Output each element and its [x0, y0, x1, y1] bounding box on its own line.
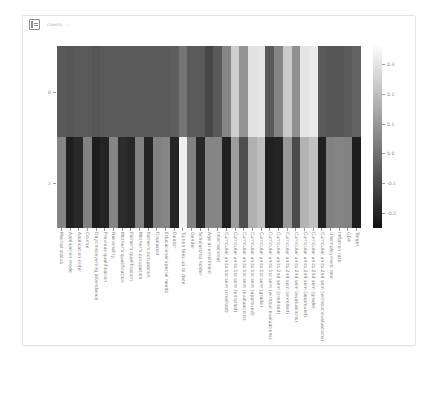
colorbar-tick-mark [382, 94, 385, 95]
x-tick-label-slot: Curricular units 1st sem (grade) [257, 231, 266, 349]
screenshot-root: clients › 01 Marital statusApplication m… [0, 0, 439, 404]
x-tick-label-slot: Previous qualification [100, 231, 109, 349]
colorbar-tick-mark [382, 64, 385, 65]
x-tick-label: Application mode [68, 232, 73, 273]
x-tick-label: Curricular units 2nd sem (grade) [311, 232, 316, 309]
x-tick-label: Curricular units 1st sem (approved) [250, 232, 255, 316]
chevron-right-icon: › [67, 22, 69, 27]
x-tick-label: Educational special needs [163, 232, 168, 293]
x-tick-label-slot: Curricular units 2nd sem (without evalua… [318, 231, 327, 349]
notebook-cell-icon[interactable] [29, 19, 40, 30]
x-tick-label: Curricular units 1st sem (enrolled) [233, 232, 238, 312]
x-tick-label: Tuition fees up to date [181, 232, 186, 285]
colorbar-gradient [373, 46, 382, 228]
x-tick-label-slot: Curricular units 2nd sem (grade) [309, 231, 318, 349]
colorbar-tick-label: 0.0 [387, 151, 394, 156]
x-tick-label: Father's qualification [129, 232, 134, 281]
x-tick-label: Curricular units 2nd sem (evaluations) [294, 232, 299, 322]
colorbar-tick-label: 0.1 [387, 121, 394, 126]
x-tick-label-slot: Application order [74, 231, 83, 349]
x-tick-label-slot: Displaced [153, 231, 162, 349]
x-tick-label: Mother's occupation [137, 232, 142, 280]
x-tick-label: Curricular units 2nd sem (enrolled) [285, 232, 290, 314]
x-tick-label: Target [354, 232, 359, 247]
x-tick-label: Debtor [172, 232, 177, 248]
x-tick-label-slot: Curricular units 1st sem (evaluations) [239, 231, 248, 349]
x-tick-label: Course [85, 232, 90, 248]
x-tick-label-slot: GDP [344, 231, 353, 349]
colorbar-tick-label: 0.3 [387, 61, 394, 66]
x-tick-label-slot: Curricular units 2nd sem (approved) [300, 231, 309, 349]
x-tick-label: Gender [189, 232, 194, 249]
x-tick-label: Displaced [155, 232, 160, 255]
x-tick-label-slot: Daytime/evening attendance [92, 231, 101, 349]
output-toolbar: clients › [23, 16, 415, 32]
x-tick-label-slot: Gender [187, 231, 196, 349]
x-tick-label: Curricular units 1st sem (without evalua… [268, 232, 273, 340]
x-tick-label-slot: Curricular units 2nd sem (evaluations) [292, 231, 301, 349]
x-tick-label: Marital status [59, 232, 64, 264]
x-tick-label-slot: Age at enrollment [205, 231, 214, 349]
x-tick-label-slot: Course [83, 231, 92, 349]
x-tick-label: Nacionality [111, 232, 116, 258]
x-tick-label: Daytime/evening attendance [94, 232, 99, 300]
x-tick-label-slot: Curricular units 1st sem (without evalua… [265, 231, 274, 349]
heatmap-figure: 01 Marital statusApplication modeApplica… [23, 32, 417, 346]
x-tick-label: Unemployment rate [328, 232, 333, 279]
x-tick-label: Curricular units 2nd sem (credited) [276, 232, 281, 314]
x-tick-label-slot: Curricular units 2nd sem (credited) [274, 231, 283, 349]
x-tick-label-slot: Mother's qualification [118, 231, 127, 349]
x-tick-label: Father's occupation [146, 232, 151, 278]
colorbar-tick-mark [382, 213, 385, 214]
x-tick-label: Application order [76, 232, 81, 272]
colorbar-tick-label: 0.2 [387, 91, 394, 96]
x-tick-label-slot: Curricular units 1st sem (enrolled) [231, 231, 240, 349]
x-tick-label: Curricular units 2nd sem (without evalua… [320, 232, 325, 341]
colorbar-tick-label: -0.1 [387, 181, 396, 186]
x-tick-label-slot: Mother's occupation [135, 231, 144, 349]
x-tick-label-slot: Tuition fees up to date [179, 231, 188, 349]
x-tick-label: Curricular units 1st sem (credited) [224, 232, 229, 313]
x-tick-label: Inflation rate [337, 232, 342, 262]
x-tick-label-slot: Curricular units 2nd sem (enrolled) [283, 231, 292, 349]
x-tick-label: Mother's qualification [120, 232, 125, 283]
colorbar-tick-mark [382, 183, 385, 184]
x-axis-labels: Marital statusApplication modeApplicatio… [57, 231, 361, 349]
x-tick-label-slot: Educational special needs [161, 231, 170, 349]
y-tick-mark [53, 92, 56, 93]
x-tick-label-slot: International [213, 231, 222, 349]
output-toolbar-label: clients [47, 22, 62, 27]
x-tick-label-slot: Nacionality [109, 231, 118, 349]
colorbar-tick-mark [382, 153, 385, 154]
colorbar-tick-label: -0.2 [387, 211, 396, 216]
x-tick-label-slot: Debtor [170, 231, 179, 349]
colorbar-tick-mark [382, 124, 385, 125]
x-tick-label-slot: Application mode [66, 231, 75, 349]
y-tick-label: 0 [31, 89, 51, 94]
x-tick-label-slot: Scholarship holder [196, 231, 205, 349]
x-tick-label: Age at enrollment [207, 232, 212, 274]
x-tick-label-slot: Unemployment rate [326, 231, 335, 349]
x-tick-label-slot: Curricular units 1st sem (approved) [248, 231, 257, 349]
y-tick-mark [53, 183, 56, 184]
x-tick-label: Curricular units 1st sem (evaluations) [241, 232, 246, 321]
x-tick-label: Previous qualification [102, 232, 107, 282]
x-tick-label-slot: Curricular units 1st sem (credited) [222, 231, 231, 349]
x-tick-label-slot: Inflation rate [335, 231, 344, 349]
x-tick-label-slot: Marital status [57, 231, 66, 349]
x-tick-label-slot: Target [352, 231, 361, 349]
x-tick-label-slot: Father's occupation [144, 231, 153, 349]
y-tick-label: 1 [31, 180, 51, 185]
x-tick-label-slot: Father's qualification [126, 231, 135, 349]
x-tick-label: International [215, 232, 220, 262]
colorbar: 0.30.20.10.0-0.1-0.2 [373, 46, 415, 228]
notebook-output-card: clients › 01 Marital statusApplication m… [22, 15, 416, 346]
x-tick-label: GDP [346, 232, 351, 242]
x-tick-label: Curricular units 2nd sem (approved) [302, 232, 307, 317]
x-tick-label: Curricular units 1st sem (grade) [259, 232, 264, 307]
x-tick-label: Scholarship holder [198, 232, 203, 276]
